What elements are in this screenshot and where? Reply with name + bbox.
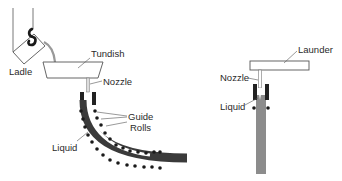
right-diagram: Launder Nozzle Liquid: [220, 44, 333, 174]
mold-right-wall-right: [265, 84, 269, 100]
liquid-label-left: Liquid: [52, 142, 77, 153]
mold-right-wall: [92, 92, 96, 105]
vertical-strand: [256, 95, 266, 174]
launder: [250, 61, 309, 70]
roll-right: [266, 106, 270, 110]
liquid-label-right: Liquid: [220, 101, 245, 112]
roll-left: [252, 106, 256, 110]
ladle-label: Ladle: [9, 66, 32, 77]
launder-label: Launder: [298, 44, 333, 55]
rolls-label: Rolls: [130, 122, 151, 133]
nozzle-label: Nozzle: [103, 76, 132, 87]
tundish-label: Tundish: [91, 48, 124, 59]
tundish: [43, 62, 103, 78]
ladle: [13, 8, 55, 64]
left-diagram: Ladle Tundish Nozzle: [9, 8, 187, 170]
guide-label: Guide: [128, 111, 153, 122]
nozzle: [87, 78, 90, 92]
continuous-casting-diagram: Ladle Tundish Nozzle: [0, 0, 342, 181]
nozzle-label-right: Nozzle: [220, 72, 249, 83]
ladle-pour-stream: [44, 42, 55, 62]
nozzle-right: [259, 70, 262, 88]
mold-left-wall-right: [253, 84, 257, 100]
